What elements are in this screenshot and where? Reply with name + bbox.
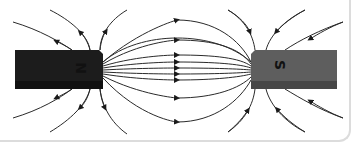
north-pole-label: N [73, 62, 89, 74]
south-pole-label: S [272, 60, 288, 70]
south-magnet: S [251, 50, 337, 89]
magnetic-field-diagram: N S [0, 0, 354, 146]
north-magnet: N [15, 50, 103, 89]
central-field-lines [103, 20, 251, 122]
